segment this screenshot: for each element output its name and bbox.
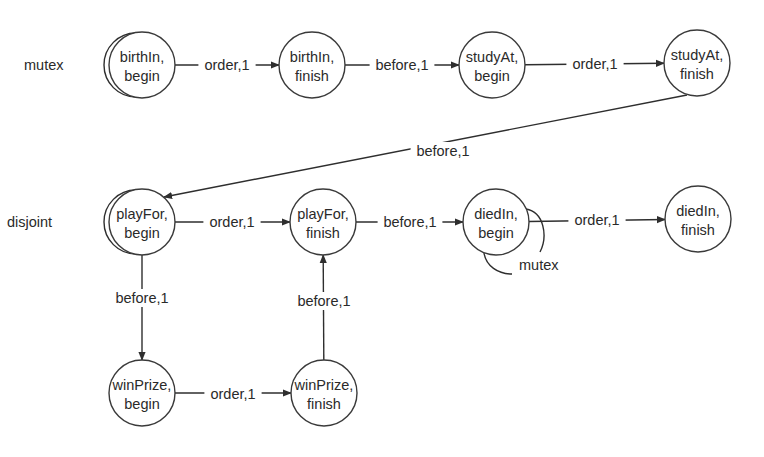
edge-label-text: before,1 xyxy=(416,143,469,159)
node-studyAt-begin[interactable]: studyAt,begin xyxy=(459,32,525,98)
edge-label: before,1 xyxy=(378,213,443,231)
edge-label-text: order,1 xyxy=(574,212,619,228)
node-playFor-finish[interactable]: playFor,finish xyxy=(290,189,356,255)
node-label-line2: begin xyxy=(124,396,159,412)
node-circle xyxy=(109,360,175,426)
node-winPrize-begin[interactable]: winPrize,begin xyxy=(109,360,175,426)
node-label-line2: begin xyxy=(124,68,159,84)
knowledge-graph-diagram: birthIn,beginbirthIn,finishstudyAt,begin… xyxy=(0,0,764,457)
node-label-line2: begin xyxy=(474,68,509,84)
node-label-line1: birthIn, xyxy=(290,49,334,65)
node-winPrize-finish[interactable]: winPrize,finish xyxy=(291,360,357,426)
self-loop-label: disjoint xyxy=(7,214,52,230)
node-circle xyxy=(291,360,357,426)
node-circle xyxy=(109,189,175,255)
node-label-line1: diedIn, xyxy=(474,206,518,222)
node-label-line2: finish xyxy=(681,222,715,238)
node-label-line1: playFor, xyxy=(297,206,349,222)
node-label-line2: begin xyxy=(124,225,159,241)
node-circle xyxy=(463,189,529,255)
node-label-line1: winPrize, xyxy=(294,377,354,393)
edge-label: order,1 xyxy=(204,385,261,403)
node-birthIn-finish[interactable]: birthIn,finish xyxy=(279,32,345,98)
node-label-line2: finish xyxy=(680,66,714,82)
edge-label-text: order,1 xyxy=(210,386,255,402)
node-label-line1: playFor, xyxy=(116,206,168,222)
self-loop-label: mutex xyxy=(519,257,559,273)
edge-label: order,1 xyxy=(203,213,260,231)
node-diedIn-begin[interactable]: diedIn,begin xyxy=(463,189,529,255)
edge-label-text: before,1 xyxy=(375,57,428,73)
edge-label-text: order,1 xyxy=(209,214,254,230)
node-label-line2: finish xyxy=(306,225,340,241)
node-circle xyxy=(279,32,345,98)
node-circle xyxy=(109,32,175,98)
node-label-line2: finish xyxy=(295,68,329,84)
node-circle xyxy=(459,32,525,98)
edge-label-text: before,1 xyxy=(115,290,168,306)
node-label-line1: studyAt, xyxy=(466,49,518,65)
node-circle xyxy=(665,186,731,252)
edge-label-text: order,1 xyxy=(572,56,617,72)
edge-label-text: before,1 xyxy=(297,293,350,309)
edge-label: order,1 xyxy=(566,55,623,73)
node-label-line1: diedIn, xyxy=(676,203,720,219)
edge-label: order,1 xyxy=(568,211,625,229)
node-label-line1: winPrize, xyxy=(112,377,172,393)
node-circle xyxy=(290,189,356,255)
edge-label: before,1 xyxy=(110,289,175,307)
self-loop-label: mutex xyxy=(24,57,64,73)
node-diedIn-finish[interactable]: diedIn,finish xyxy=(665,186,731,252)
edge-label: before,1 xyxy=(292,292,357,310)
node-label-line1: studyAt, xyxy=(671,47,723,63)
node-birthIn-begin[interactable]: birthIn,begin xyxy=(109,32,175,98)
node-label-line2: begin xyxy=(478,225,513,241)
edge-label: order,1 xyxy=(198,56,255,74)
node-studyAt-finish[interactable]: studyAt,finish xyxy=(664,30,730,96)
node-playFor-begin[interactable]: playFor,begin xyxy=(109,189,175,255)
node-circle xyxy=(664,30,730,96)
edge-label: before,1 xyxy=(411,142,476,160)
node-label-line1: birthIn, xyxy=(120,49,164,65)
edge-label-text: order,1 xyxy=(204,57,249,73)
edge-label: before,1 xyxy=(370,56,435,74)
node-label-line2: finish xyxy=(307,396,341,412)
edge-label-text: before,1 xyxy=(383,214,436,230)
